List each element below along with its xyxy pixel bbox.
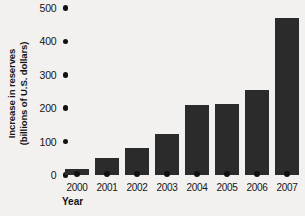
bar-slot <box>155 8 179 175</box>
x-axis-label-2003: 2003 <box>151 182 183 193</box>
y-axis-tick-label: 200 <box>40 102 57 114</box>
y-axis-title-line2: (billions of U.S. dollars) <box>18 41 30 145</box>
bar-chart-figure: Increase in reserves (billions of U.S. d… <box>0 0 305 216</box>
x-axis-tick-dot-icon <box>254 171 260 177</box>
x-axis-label-2002: 2002 <box>121 182 153 193</box>
bar-slot <box>245 8 269 175</box>
y-axis-title-line1: Increase in reserves <box>7 41 19 145</box>
x-axis-tick-dot-icon <box>164 171 170 177</box>
bar-slot <box>185 8 209 175</box>
x-axis-label-2007: 2007 <box>271 182 303 193</box>
bar-2007 <box>275 18 299 175</box>
bar-2006 <box>245 90 269 175</box>
x-axis-title: Year <box>62 196 83 207</box>
x-axis-label-2001: 2001 <box>91 182 123 193</box>
bar-slot <box>275 8 299 175</box>
x-axis-label-2006: 2006 <box>241 182 273 193</box>
bar-slot <box>65 8 89 175</box>
bar-slot <box>95 8 119 175</box>
x-axis-label-2000: 2000 <box>61 182 93 193</box>
y-axis-tick-label: 100 <box>40 136 57 148</box>
y-axis-tick-label: 500 <box>40 2 57 14</box>
x-axis-tick-dot-icon <box>284 171 290 177</box>
y-axis-title: Increase in reserves (billions of U.S. d… <box>0 0 36 186</box>
x-axis-tick-dot-icon <box>104 171 110 177</box>
x-axis-tick-dot-icon <box>74 171 80 177</box>
bar-2005 <box>215 104 239 175</box>
x-axis-tick-dot-icon <box>224 171 230 177</box>
y-axis-tick-label: 0 <box>51 169 57 181</box>
x-axis-label-2004: 2004 <box>181 182 213 193</box>
bar-2003 <box>155 134 179 175</box>
bar-slot <box>215 8 239 175</box>
y-axis-tick-label: 300 <box>40 69 57 81</box>
x-axis-label-2005: 2005 <box>211 182 243 193</box>
bar-slot <box>125 8 149 175</box>
x-axis-tick-dot-icon <box>134 171 140 177</box>
plot-area <box>62 8 302 175</box>
bar-2004 <box>185 105 209 175</box>
x-axis-tick-dot-icon <box>194 171 200 177</box>
y-axis-tick-label: 400 <box>40 35 57 47</box>
